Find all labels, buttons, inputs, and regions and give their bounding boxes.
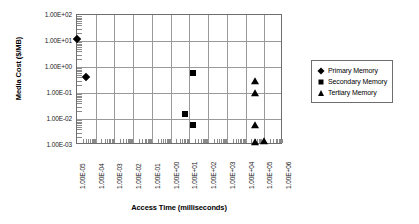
legend-triangle-icon	[316, 88, 325, 97]
legend-diamond-icon	[316, 66, 325, 75]
x-tick-label: 1.00E-02	[135, 163, 142, 189]
chart-legend: Primary MemorySecondary MemoryTertiary M…	[311, 60, 393, 103]
x-tick-label: 1.00E+04	[248, 162, 255, 189]
x-tick-label: 1.00E-05	[79, 163, 86, 189]
legend-item: Primary Memory	[316, 65, 387, 76]
x-tick-label: 1.00E+03	[229, 162, 236, 189]
legend-label: Tertiary Memory	[328, 89, 377, 97]
x-tick-label: 1.00E+06	[285, 162, 292, 189]
x-tick-label: 1.00E+00	[173, 162, 180, 189]
x-axis-title: Access Time (milliseconds)	[76, 203, 282, 212]
chart-root: 1.00E+021.00E+011.00E+001.00E-011.00E-02…	[0, 0, 419, 224]
x-tick-label: 1.00E+02	[210, 162, 217, 189]
legend-label: Secondary Memory	[328, 78, 387, 86]
legend-item: Secondary Memory	[316, 76, 387, 87]
x-tick-label: 1.00E+01	[191, 162, 198, 189]
x-tick-label: 1.00E-04	[98, 163, 105, 189]
x-tick-label: 1.00E-03	[116, 163, 123, 189]
x-axis-tick-labels: 1.00E-051.00E-041.00E-031.00E-021.00E-01…	[0, 0, 419, 224]
x-tick-label: 1.00E+05	[266, 162, 273, 189]
x-tick-label: 1.00E-01	[154, 163, 161, 189]
legend-item: Tertiary Memory	[316, 87, 387, 98]
legend-label: Primary Memory	[328, 67, 378, 75]
legend-square-icon	[316, 77, 325, 86]
